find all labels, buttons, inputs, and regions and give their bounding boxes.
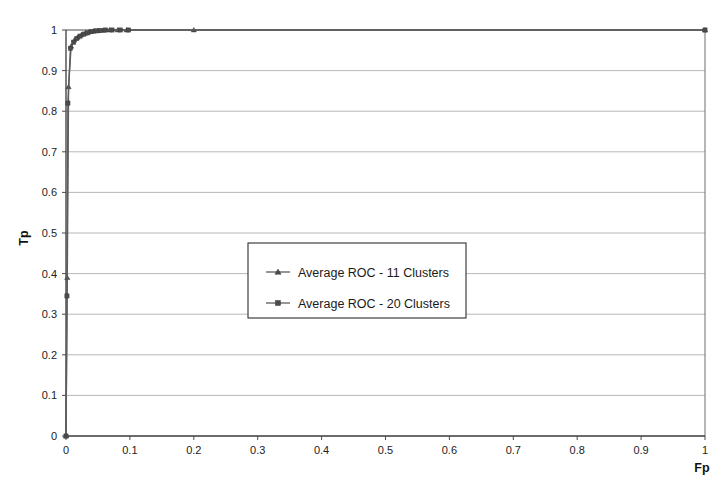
series-1-point-12 xyxy=(104,28,108,32)
series-1-point-11 xyxy=(98,28,102,32)
x-tick-label-0.4: 0.4 xyxy=(314,444,329,456)
x-tick-label-0.3: 0.3 xyxy=(250,444,265,456)
x-tick-label-0.5: 0.5 xyxy=(378,444,393,456)
legend-label-0: Average ROC - 11 Clusters xyxy=(298,266,449,280)
x-tick-label-0.7: 0.7 xyxy=(506,444,521,456)
series-1-point-6 xyxy=(78,34,82,38)
x-tick-label-0: 0 xyxy=(63,444,69,456)
x-tick-label-0.1: 0.1 xyxy=(122,444,137,456)
chart-canvas: 00.10.20.30.40.50.60.70.80.91 00.10.20.3… xyxy=(0,0,721,494)
x-tick-label-0.6: 0.6 xyxy=(442,444,457,456)
x-tick-label-0.8: 0.8 xyxy=(570,444,585,456)
series-1-point-9 xyxy=(89,30,93,34)
y-tick-label-0.6: 0.6 xyxy=(42,186,57,198)
x-tick-label-0.9: 0.9 xyxy=(633,444,648,456)
x-tick-label-0.2: 0.2 xyxy=(186,444,201,456)
series-1-point-16 xyxy=(703,28,707,32)
y-tick-label-0.2: 0.2 xyxy=(42,349,57,361)
y-tick-label-0: 0 xyxy=(51,430,57,442)
y-tick-label-1: 1 xyxy=(51,24,57,36)
series-1-point-8 xyxy=(86,31,90,35)
series-1-point-15 xyxy=(127,28,131,32)
x-tick-label-1: 1 xyxy=(702,444,708,456)
y-tick-label-0.1: 0.1 xyxy=(42,389,57,401)
legend-label-1: Average ROC - 20 Clusters xyxy=(298,297,450,311)
roc-chart-figure: 00.10.20.30.40.50.60.70.80.91 00.10.20.3… xyxy=(0,0,721,494)
y-tick-label-0.3: 0.3 xyxy=(42,308,57,320)
series-1-point-14 xyxy=(118,28,122,32)
series-1-point-10 xyxy=(94,29,98,33)
y-tick-label-0.5: 0.5 xyxy=(42,227,57,239)
series-1-point-3 xyxy=(68,46,72,50)
series-1-point-2 xyxy=(66,101,70,105)
series-1-point-1 xyxy=(65,294,69,298)
legend-marker-square-icon xyxy=(276,301,281,306)
series-1-point-0 xyxy=(64,434,68,438)
y-tick-label-0.4: 0.4 xyxy=(42,268,57,280)
x-axis-title: Fp xyxy=(694,461,710,475)
y-tick-label-0.8: 0.8 xyxy=(42,105,57,117)
y-axis-title: Tp xyxy=(17,230,31,246)
series-1-point-7 xyxy=(82,32,86,36)
series-1-point-13 xyxy=(110,28,114,32)
y-tick-label-0.7: 0.7 xyxy=(42,146,57,158)
y-tick-label-0.9: 0.9 xyxy=(42,65,57,77)
chart-legend: Average ROC - 11 ClustersAverage ROC - 2… xyxy=(248,243,466,318)
